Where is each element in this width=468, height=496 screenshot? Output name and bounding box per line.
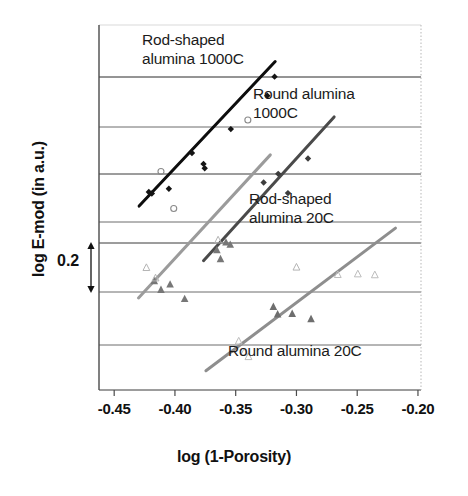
x-axis-title: log (1-Porosity) [0,448,468,466]
chart-plot-area [0,0,468,496]
y-scale-bar-arrow [87,242,94,293]
data-point [270,303,278,310]
data-point [181,295,189,302]
data-point [215,236,222,243]
x-tick-label: -0.45 [84,400,144,417]
data-point [166,280,174,287]
data-point [293,263,300,270]
data-point [354,270,361,277]
y-axis-title: log E-mod (in a.u.) [30,84,48,334]
data-point [288,310,296,317]
data-point [157,286,165,293]
data-point [245,117,251,123]
annotation-rod-shaped-alumina-20c: Rod-shaped alumina 20C [249,189,334,227]
data-point [143,264,150,271]
annotation-round-alumina-1000c: Round alumina 1000C [253,84,355,122]
chart-figure: Rod-shaped alumina 1000C Round alumina 1… [0,0,468,496]
data-point [260,179,266,185]
data-point [307,315,315,322]
data-point [305,155,311,161]
x-tick-label: -0.20 [388,400,448,417]
x-tick-label: -0.25 [327,400,387,417]
x-tick-label: -0.35 [206,400,266,417]
annotation-rod-shaped-alumina-1000c: Rod-shaped alumina 1000C [142,30,244,68]
y-scale-bar-label: 0.2 [57,252,79,270]
data-point [171,205,177,211]
x-tick-label: -0.30 [266,400,326,417]
data-point [166,186,172,192]
x-tick-label: -0.40 [145,400,205,417]
data-point [217,255,225,262]
annotation-round-alumina-20c: Round alumina 20C [228,341,362,360]
tick-marks-group [114,390,418,396]
data-point [271,73,277,79]
data-point [371,271,378,278]
